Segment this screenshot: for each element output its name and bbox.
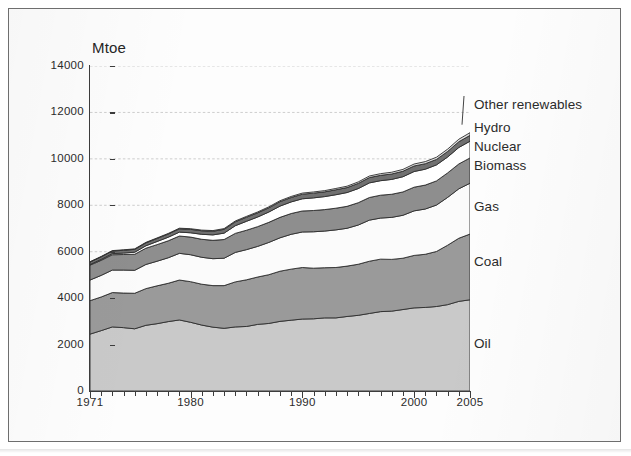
x-tick-mark [314, 391, 315, 396]
x-tick-mark [381, 391, 382, 396]
series-label-other-renewables: Other renewables [474, 98, 582, 112]
series-label-nuclear: Nuclear [474, 140, 521, 154]
x-tick-mark [202, 391, 203, 396]
x-tick-mark [269, 391, 270, 396]
series-label-hydro: Hydro [474, 121, 511, 135]
x-tick-mark [112, 391, 113, 396]
x-tick-label: 1971 [60, 397, 120, 409]
x-tick-mark [403, 391, 404, 396]
x-tick-mark [124, 391, 125, 396]
x-tick-mark [246, 391, 247, 396]
x-tick-label: 1990 [272, 397, 332, 409]
x-tick-label: 1980 [161, 397, 221, 409]
x-tick-mark [347, 391, 348, 396]
series-label-biomass: Biomass [474, 159, 526, 173]
x-tick-mark [336, 391, 337, 396]
x-tick-label: 2005 [440, 397, 500, 409]
x-tick-mark [369, 391, 370, 396]
x-tick-mark [179, 391, 180, 396]
x-tick-mark [425, 391, 426, 396]
x-tick-mark [235, 391, 236, 396]
x-tick-mark [358, 391, 359, 396]
x-axis-tick-labels: 19711980199020002005 [9, 9, 631, 456]
series-label-gas: Gas [474, 200, 499, 214]
x-tick-label: 2000 [384, 397, 444, 409]
x-tick-mark [101, 391, 102, 396]
x-tick-mark [157, 391, 158, 396]
x-tick-mark [291, 391, 292, 396]
x-tick-mark [448, 391, 449, 396]
x-tick-mark [135, 391, 136, 396]
x-tick-mark [224, 391, 225, 396]
x-tick-mark [436, 391, 437, 396]
x-tick-mark [280, 391, 281, 396]
x-tick-mark [392, 391, 393, 396]
x-tick-mark [325, 391, 326, 396]
x-tick-mark [168, 391, 169, 396]
x-tick-mark [459, 391, 460, 396]
x-tick-mark [258, 391, 259, 396]
figure-frame: Mtoe 02000400060008000100001200014000 19… [8, 8, 621, 442]
page-edge-shadow [0, 449, 631, 453]
x-tick-mark [213, 391, 214, 396]
series-label-coal: Coal [474, 255, 502, 269]
series-label-oil: Oil [474, 337, 491, 351]
x-tick-mark [146, 391, 147, 396]
